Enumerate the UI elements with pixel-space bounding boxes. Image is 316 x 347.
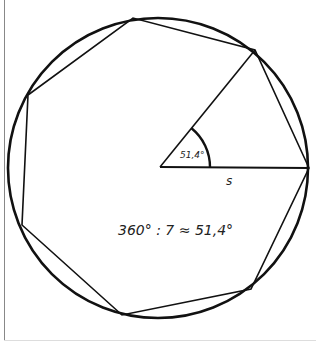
side-label: s [226, 174, 232, 188]
formula-label: 360° : 7 ≈ 51,4° [118, 222, 233, 238]
radius-line-side [160, 167, 309, 168]
angle-arc [192, 128, 211, 167]
angle-label: 51,4° [180, 150, 205, 160]
heptagon-diagram: 51,4° s 360° : 7 ≈ 51,4° [0, 0, 316, 347]
